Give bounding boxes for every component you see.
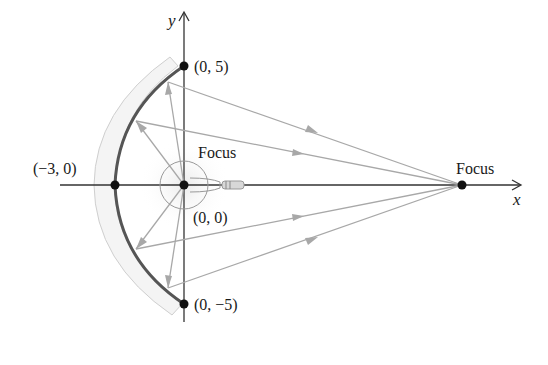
label-top: (0, 5) <box>194 58 229 76</box>
point-bottom <box>180 300 189 309</box>
x-axis-label: x <box>512 190 521 209</box>
point-origin-focus <box>180 181 189 190</box>
hyperbolic-mirror-diagram: x y <box>0 0 548 365</box>
label-origin: (0, 0) <box>193 209 228 227</box>
point-vertex <box>111 181 120 190</box>
label-vertex: (−3, 0) <box>33 160 77 178</box>
point-top <box>180 62 189 71</box>
point-right-focus <box>458 181 467 190</box>
label-right-focus: Focus <box>456 160 494 177</box>
label-bottom: (0, −5) <box>194 296 238 314</box>
y-axis-label: y <box>166 11 176 30</box>
label-origin-focus: Focus <box>198 144 236 161</box>
